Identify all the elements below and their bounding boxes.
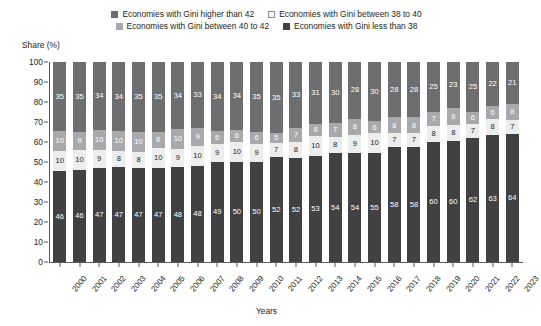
bar-segment-b3840[interactable]: 9 [250, 144, 263, 162]
bar-segment-b4042[interactable]: 6 [466, 112, 479, 124]
bar-segment-b3840[interactable]: 8 [132, 152, 145, 168]
bar-column-2004[interactable]: 3510847 [129, 62, 149, 262]
bar-segment-b3840[interactable]: 10 [230, 142, 243, 162]
bar-column-2009[interactable]: 3461050 [227, 62, 247, 262]
bar-segment-high[interactable]: 21 [506, 62, 519, 104]
stacked-bar[interactable]: 3510847 [132, 62, 145, 262]
bar-segment-b3840[interactable]: 10 [53, 151, 66, 171]
bar-segment-b4042[interactable]: 8 [407, 117, 420, 133]
bar-segment-low[interactable]: 46 [73, 170, 86, 262]
stacked-bar[interactable]: 288954 [348, 62, 361, 262]
stacked-bar[interactable]: 3461050 [230, 62, 243, 262]
bar-segment-b4042[interactable]: 8 [152, 132, 165, 148]
bar-segment-b4042[interactable]: 8 [447, 108, 460, 124]
bar-segment-low[interactable]: 50 [230, 162, 243, 262]
bar-segment-high[interactable]: 28 [388, 62, 401, 117]
bar-segment-low[interactable]: 48 [171, 167, 184, 262]
bar-column-2017[interactable]: 288758 [384, 62, 404, 262]
stacked-bar[interactable]: 3410948 [171, 62, 184, 262]
stacked-bar[interactable]: 3591046 [73, 62, 86, 262]
bar-segment-b4042[interactable]: 6 [309, 124, 322, 136]
bar-segment-b4042[interactable]: 6 [211, 131, 224, 143]
stacked-bar[interactable]: 3391048 [191, 62, 204, 262]
bar-segment-b4042[interactable]: 5 [270, 133, 283, 143]
stacked-bar[interactable]: 257860 [427, 62, 440, 262]
bar-column-2008[interactable]: 346949 [207, 62, 227, 262]
bar-segment-low[interactable]: 63 [486, 135, 499, 262]
bar-column-2015[interactable]: 288954 [345, 62, 365, 262]
stacked-bar[interactable]: 346949 [211, 62, 224, 262]
bar-segment-b4042[interactable]: 7 [329, 123, 342, 137]
bar-segment-high[interactable]: 35 [152, 62, 165, 132]
bar-segment-low[interactable]: 60 [447, 141, 460, 262]
bar-segment-high[interactable]: 34 [93, 62, 106, 130]
bar-column-2010[interactable]: 356950 [247, 62, 267, 262]
stacked-bar[interactable]: 307854 [329, 62, 342, 262]
stacked-bar[interactable]: 3581047 [152, 62, 165, 262]
bar-segment-low[interactable]: 50 [250, 162, 263, 262]
bar-segment-b4042[interactable]: 7 [289, 128, 302, 142]
bar-column-2019[interactable]: 257860 [424, 62, 444, 262]
bar-segment-low[interactable]: 54 [348, 153, 361, 262]
bar-segment-b3840[interactable]: 10 [309, 136, 322, 156]
bar-segment-low[interactable]: 62 [466, 138, 479, 262]
bar-segment-b3840[interactable]: 10 [152, 148, 165, 168]
bar-segment-low[interactable]: 47 [132, 168, 145, 262]
bar-segment-b4042[interactable]: 10 [53, 131, 66, 151]
bar-segment-b4042[interactable]: 10 [93, 130, 106, 150]
bar-column-2023[interactable]: 218764 [502, 62, 522, 262]
bar-column-2014[interactable]: 307854 [325, 62, 345, 262]
stacked-bar[interactable]: 218764 [506, 62, 519, 262]
bar-column-2006[interactable]: 3410948 [168, 62, 188, 262]
bar-segment-high[interactable]: 33 [191, 62, 204, 128]
bar-segment-low[interactable]: 52 [289, 158, 302, 262]
bar-segment-b3840[interactable]: 8 [427, 126, 440, 142]
bar-segment-b3840[interactable]: 8 [486, 119, 499, 135]
bar-column-2011[interactable]: 355752 [266, 62, 286, 262]
bar-segment-b3840[interactable]: 8 [289, 142, 302, 158]
bar-segment-b4042[interactable]: 6 [368, 121, 381, 133]
stacked-bar[interactable]: 337852 [289, 62, 302, 262]
bar-segment-high[interactable]: 35 [270, 62, 283, 133]
stacked-bar[interactable]: 238860 [447, 62, 460, 262]
stacked-bar[interactable]: 3161053 [309, 62, 322, 262]
bar-segment-high[interactable]: 34 [112, 62, 125, 131]
bar-segment-b3840[interactable]: 9 [93, 150, 106, 168]
bar-segment-high[interactable]: 31 [309, 62, 322, 124]
stacked-bar[interactable]: 256762 [466, 62, 479, 262]
stacked-bar[interactable]: 288758 [388, 62, 401, 262]
bar-segment-b3840[interactable]: 7 [388, 133, 401, 147]
bar-segment-b3840[interactable]: 8 [329, 137, 342, 153]
stacked-bar[interactable]: 226863 [486, 62, 499, 262]
bar-segment-b4042[interactable]: 6 [250, 132, 263, 144]
bar-segment-low[interactable]: 60 [427, 142, 440, 262]
bar-segment-b4042[interactable]: 9 [191, 128, 204, 146]
bar-segment-high[interactable]: 22 [486, 62, 499, 106]
stacked-bar[interactable]: 356950 [250, 62, 263, 262]
bar-segment-b4042[interactable]: 8 [348, 119, 361, 135]
stacked-bar[interactable]: 3410847 [112, 62, 125, 262]
bar-segment-low[interactable]: 58 [388, 147, 401, 262]
bar-segment-low[interactable]: 47 [93, 168, 106, 262]
bar-segment-b4042[interactable]: 6 [486, 106, 499, 118]
stacked-bar[interactable]: 35101046 [53, 62, 66, 262]
bar-segment-low[interactable]: 47 [112, 167, 125, 262]
bar-segment-high[interactable]: 23 [447, 62, 460, 108]
bar-segment-b4042[interactable]: 6 [230, 130, 243, 142]
bar-segment-low[interactable]: 47 [152, 168, 165, 262]
bar-segment-low[interactable]: 46 [53, 171, 66, 262]
bar-column-2013[interactable]: 3161053 [306, 62, 326, 262]
bar-segment-low[interactable]: 55 [368, 153, 381, 262]
bar-segment-b4042[interactable]: 9 [73, 132, 86, 150]
bar-segment-b4042[interactable]: 8 [506, 104, 519, 120]
bar-segment-b4042[interactable]: 10 [171, 129, 184, 149]
bar-segment-high[interactable]: 25 [466, 62, 479, 112]
bar-column-2001[interactable]: 3591046 [70, 62, 90, 262]
bar-segment-b3840[interactable]: 10 [191, 146, 204, 166]
bar-segment-high[interactable]: 30 [329, 62, 342, 123]
bar-segment-high[interactable]: 35 [73, 62, 86, 132]
bar-segment-b4042[interactable]: 10 [132, 132, 145, 152]
bar-column-2021[interactable]: 256762 [463, 62, 483, 262]
bar-segment-high[interactable]: 35 [250, 62, 263, 132]
bar-column-2002[interactable]: 3410947 [89, 62, 109, 262]
